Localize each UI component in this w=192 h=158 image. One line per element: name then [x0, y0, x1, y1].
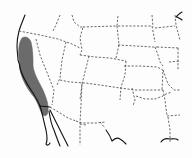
- state-borders: [19, 15, 180, 145]
- map-svg: [0, 0, 192, 158]
- baja-east-coast: [49, 111, 60, 146]
- range-map: [0, 0, 192, 158]
- lake-michigan-shore: [176, 12, 182, 20]
- gulf-coast-east: [161, 139, 178, 142]
- texas-coast-west: [106, 130, 126, 144]
